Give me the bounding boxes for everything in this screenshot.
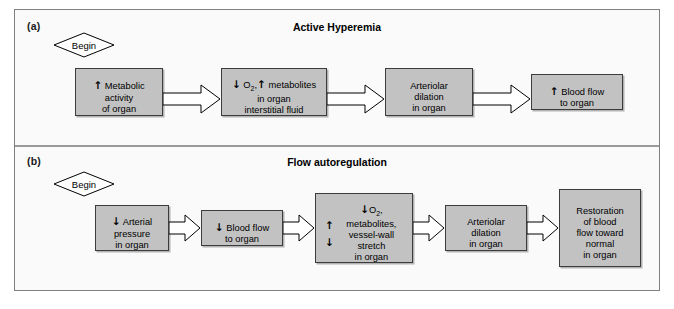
box-restoration-text: Restorationof bloodflow towardnormalin o… [576,194,624,261]
box-blood-flow-a-text: ↑ Blood flowto organ [550,75,604,110]
box-o2-metabolites-stretch: ↑↓ ↓O2,metabolites,vessel-wallstretchin … [315,193,413,263]
flow-arrow-b3 [413,214,445,242]
box-arterial-pressure: ↓ Arterialpressurein organ [95,205,169,251]
flow-arrow-a2 [327,84,385,114]
box-o2-metabolites-stretch-side-arrows: ↑↓ [319,210,334,247]
box-blood-flow-a: ↑ Blood flowto organ [531,74,623,110]
figure-frame: (a) Active Hyperemia Begin ↑ Metabolicac… [14,9,660,291]
flow-arrow-b2 [283,214,315,242]
box-arteriolar-dilation-a: Arteriolardilationin organ [385,68,473,116]
flow-arrow-b4 [527,214,559,242]
begin-label-b: Begin [53,171,115,197]
box-o2-metabolites-text: ↓ O2,↑ metabolitesin organinterstitial f… [232,68,316,117]
box-restoration: Restorationof bloodflow towardnormalin o… [559,189,641,267]
box-arteriolar-dilation-a-text: Arteriolardilationin organ [410,70,448,115]
panel-active-hyperemia: (a) Active Hyperemia Begin ↑ Metabolicac… [15,10,659,147]
flow-arrow-b1 [169,214,201,242]
box-metabolic-activity-text: ↑ Metabolicactivityof organ [93,69,144,115]
box-blood-flow-b: ↓ Blood flowto organ [201,210,283,246]
box-blood-flow-b-text: ↓ Blood flowto organ [215,211,269,246]
box-arteriolar-dilation-b: Arteriolardilationin organ [445,205,527,251]
flow-arrow-a3 [473,84,531,114]
begin-node-b: Begin [53,171,115,197]
begin-node-a: Begin [53,32,115,58]
flowchart-figure: (a) Active Hyperemia Begin ↑ Metabolicac… [0,0,674,309]
panel-b-title: Flow autoregulation [15,156,659,168]
begin-label-a: Begin [53,32,115,58]
box-arterial-pressure-text: ↓ Arterialpressurein organ [112,205,152,251]
box-o2-metabolites: ↓ O2,↑ metabolitesin organinterstitial f… [221,68,327,116]
box-o2-metabolites-stretch-text: ↓O2,metabolites,vessel-wallstretchin org… [334,192,409,263]
box-metabolic-activity: ↑ Metabolicactivityof organ [75,68,163,116]
panel-flow-autoregulation: (b) Flow autoregulation Begin ↓ Arterial… [15,147,659,290]
flow-arrow-a1 [163,84,221,114]
box-arteriolar-dilation-b-text: Arteriolardilationin organ [467,206,505,251]
